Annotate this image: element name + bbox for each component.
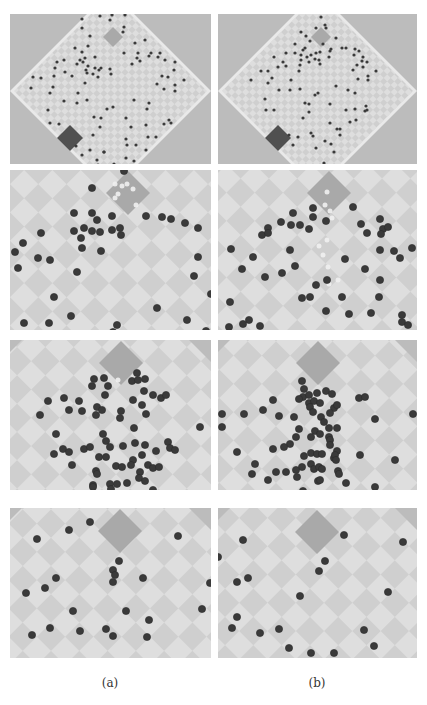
agent xyxy=(96,75,99,78)
agent xyxy=(363,229,370,236)
agent xyxy=(80,17,83,20)
caption-a: (a) xyxy=(80,676,140,690)
agent xyxy=(69,607,76,614)
agent xyxy=(67,312,74,319)
agent xyxy=(172,68,175,71)
agent xyxy=(218,423,225,430)
agent xyxy=(124,116,127,119)
panel-b-row4 xyxy=(218,508,417,658)
panel-b-row3 xyxy=(218,340,417,490)
agent xyxy=(328,390,335,397)
agent xyxy=(75,397,82,404)
agent xyxy=(346,88,349,91)
agent xyxy=(122,607,129,614)
agent xyxy=(351,68,354,71)
agent xyxy=(65,406,72,413)
agent xyxy=(123,479,130,486)
agent xyxy=(296,592,303,599)
agent xyxy=(62,58,65,61)
agent xyxy=(152,447,159,454)
agent xyxy=(174,532,181,539)
agent xyxy=(272,55,275,58)
agent xyxy=(158,51,161,54)
agent xyxy=(89,483,96,490)
agent xyxy=(194,253,201,260)
agent xyxy=(98,406,105,413)
agent xyxy=(98,125,101,128)
agent xyxy=(132,159,135,162)
agent xyxy=(360,59,363,62)
agent xyxy=(305,225,312,232)
agent xyxy=(321,42,324,45)
agent xyxy=(312,281,319,288)
agent xyxy=(319,15,322,18)
agent xyxy=(301,116,304,119)
agent xyxy=(298,294,305,301)
agent xyxy=(206,579,211,586)
agent xyxy=(134,143,137,146)
agent xyxy=(194,224,201,231)
agent xyxy=(341,255,348,262)
agent xyxy=(169,121,172,124)
agent xyxy=(305,55,308,58)
agent xyxy=(109,72,112,75)
agent xyxy=(266,69,269,72)
agent xyxy=(332,456,339,463)
agent xyxy=(173,60,176,63)
agent xyxy=(371,415,378,422)
agent xyxy=(93,66,96,69)
agent xyxy=(146,135,149,138)
agent xyxy=(141,375,148,382)
agent xyxy=(113,480,120,487)
agent xyxy=(300,385,307,392)
agent xyxy=(108,226,115,233)
agent xyxy=(289,209,296,216)
agent xyxy=(28,631,35,638)
agent xyxy=(93,216,100,223)
agent xyxy=(133,41,136,44)
agent xyxy=(145,107,148,110)
agent xyxy=(261,273,268,280)
agent xyxy=(83,56,86,59)
agent xyxy=(287,133,290,136)
agent xyxy=(198,605,205,612)
agent xyxy=(311,134,314,137)
agent xyxy=(75,62,78,65)
agent xyxy=(275,625,282,632)
agent xyxy=(291,143,294,146)
agent xyxy=(313,57,316,60)
caption-b: (b) xyxy=(287,676,347,690)
agent xyxy=(374,69,377,72)
agent xyxy=(353,91,356,94)
agent xyxy=(155,82,158,85)
agent xyxy=(101,391,108,398)
agent xyxy=(102,150,105,153)
agent xyxy=(60,394,67,401)
agent xyxy=(340,46,343,49)
agent xyxy=(155,463,162,470)
agent xyxy=(285,644,292,651)
agent xyxy=(130,424,137,431)
agent xyxy=(108,18,111,21)
agent xyxy=(239,536,246,543)
agent xyxy=(338,133,341,136)
agent xyxy=(307,102,310,105)
agent xyxy=(70,74,73,77)
agent xyxy=(121,30,124,33)
agent xyxy=(80,50,83,53)
agent xyxy=(399,538,406,545)
agent xyxy=(85,98,88,101)
agent xyxy=(309,408,316,415)
agent xyxy=(288,88,291,91)
agent xyxy=(162,391,169,398)
agent xyxy=(264,229,271,236)
agent xyxy=(70,227,77,234)
agent xyxy=(95,453,102,460)
agent xyxy=(291,262,298,269)
agent xyxy=(272,468,279,475)
agent xyxy=(144,148,147,151)
agent xyxy=(63,70,66,73)
agent xyxy=(162,122,165,125)
agent xyxy=(134,376,141,383)
agent xyxy=(308,39,311,42)
